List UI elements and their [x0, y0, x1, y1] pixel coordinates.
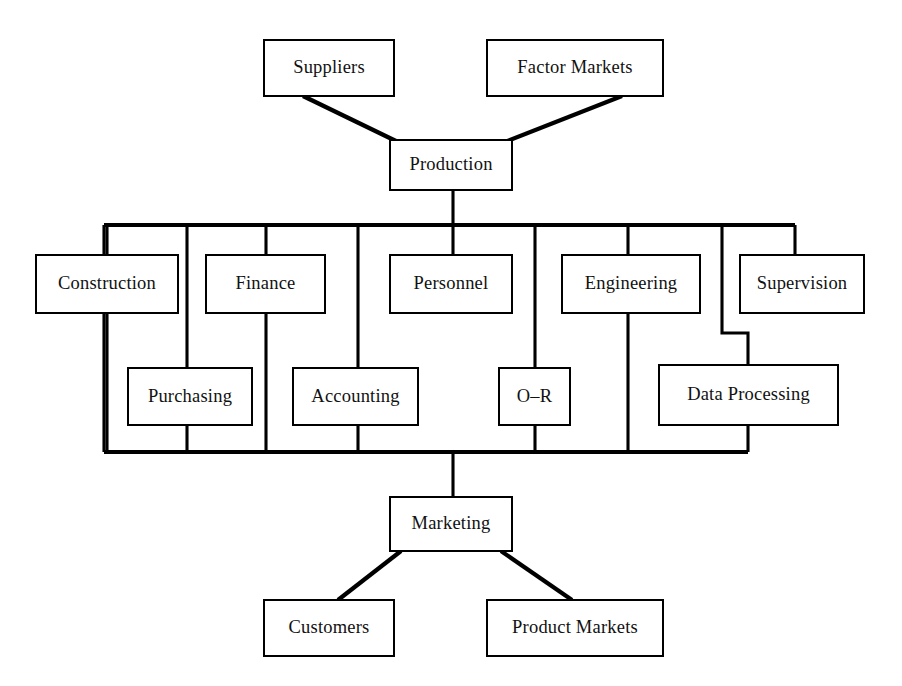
node-production[interactable]: Production — [390, 140, 512, 190]
node-label-customers: Customers — [289, 617, 370, 637]
node-label-production: Production — [409, 154, 492, 174]
organization-diagram: SuppliersFactor MarketsProductionConstru… — [0, 0, 902, 686]
node-engineering[interactable]: Engineering — [562, 255, 700, 313]
node-label-engineering: Engineering — [585, 273, 678, 293]
node-label-personnel: Personnel — [414, 273, 489, 293]
node-label-factor_markets: Factor Markets — [517, 57, 632, 77]
node-o_r[interactable]: O–R — [499, 368, 570, 425]
node-label-suppliers: Suppliers — [293, 57, 365, 77]
node-label-product_markets: Product Markets — [512, 617, 638, 637]
link-marketing-product-markets — [501, 551, 572, 600]
node-label-supervision: Supervision — [757, 273, 848, 293]
node-construction[interactable]: Construction — [36, 255, 178, 313]
node-label-marketing: Marketing — [412, 513, 491, 533]
node-suppliers[interactable]: Suppliers — [264, 40, 394, 96]
node-personnel[interactable]: Personnel — [390, 255, 512, 313]
node-supervision[interactable]: Supervision — [740, 255, 864, 313]
node-product_markets[interactable]: Product Markets — [487, 600, 663, 656]
link-factor-markets-production — [505, 96, 622, 142]
link-suppliers-production — [303, 96, 398, 142]
node-purchasing[interactable]: Purchasing — [128, 368, 252, 425]
link-marketing-customers — [338, 551, 401, 600]
node-label-finance: Finance — [236, 273, 296, 293]
node-label-accounting: Accounting — [311, 386, 399, 406]
node-accounting[interactable]: Accounting — [293, 368, 418, 425]
node-data_processing[interactable]: Data Processing — [659, 365, 838, 425]
node-label-data_processing: Data Processing — [687, 384, 810, 404]
node-marketing[interactable]: Marketing — [390, 497, 512, 551]
node-label-purchasing: Purchasing — [148, 386, 232, 406]
node-factor_markets[interactable]: Factor Markets — [487, 40, 663, 96]
node-finance[interactable]: Finance — [206, 255, 325, 313]
node-label-o_r: O–R — [517, 386, 553, 406]
node-label-construction: Construction — [58, 273, 156, 293]
diagram-canvas: SuppliersFactor MarketsProductionConstru… — [0, 0, 902, 686]
node-layer: SuppliersFactor MarketsProductionConstru… — [36, 40, 864, 656]
node-customers[interactable]: Customers — [264, 600, 394, 656]
